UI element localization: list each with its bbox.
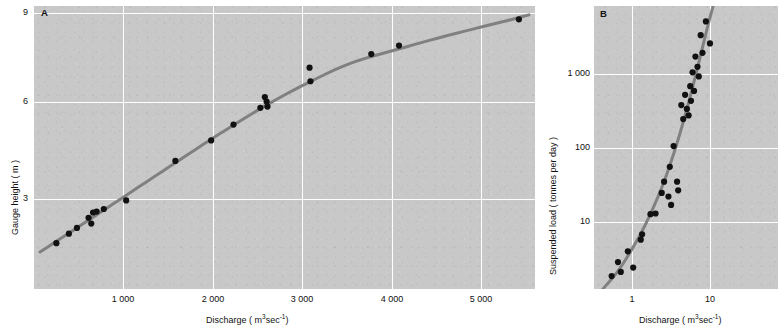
- data-point: [609, 273, 615, 279]
- data-point: [698, 32, 704, 38]
- panel-a-xtick-2000: 2 000: [186, 295, 240, 304]
- data-point: [689, 69, 695, 75]
- panel-a-fit-curve: [40, 15, 529, 252]
- panel-b-x-axis-title-end: ): [718, 315, 721, 325]
- panel-b-xtick-10: 10: [690, 295, 730, 304]
- panel-b-x-axis-title: Discharge ( m3sec-1): [639, 313, 721, 325]
- data-point: [665, 193, 671, 199]
- data-point: [307, 78, 313, 84]
- panel-a-ytick-9: 9: [14, 8, 28, 17]
- panel-a-plot-area: [34, 6, 535, 289]
- data-point: [123, 197, 129, 203]
- panel-a-x-axis-title: Discharge ( m3sec-1): [206, 313, 288, 325]
- data-point: [652, 210, 658, 216]
- panel-a-x-axis-title-main: Discharge ( m: [206, 315, 262, 325]
- data-point: [703, 18, 709, 24]
- panel-a-xtick-1000: 1 000: [96, 295, 150, 304]
- data-point: [230, 121, 236, 127]
- panel-b-x-axis-title-main: Discharge ( m: [639, 315, 695, 325]
- data-point: [396, 42, 402, 48]
- panel-a-xtick-5000: 5 000: [454, 295, 508, 304]
- data-point: [638, 237, 644, 243]
- data-point: [88, 220, 94, 226]
- data-point: [685, 112, 691, 118]
- data-point: [172, 158, 178, 164]
- data-point: [694, 64, 700, 70]
- panel-b-xtick-1: 1: [612, 295, 652, 304]
- data-point: [66, 231, 72, 237]
- data-point: [257, 105, 263, 111]
- data-point: [696, 73, 702, 79]
- data-point: [264, 103, 270, 109]
- data-point: [668, 202, 674, 208]
- data-point: [615, 259, 621, 265]
- data-point: [674, 179, 680, 185]
- data-point: [707, 40, 713, 46]
- panel-a-x-axis-title-mid: sec: [266, 315, 280, 325]
- data-point: [368, 51, 374, 57]
- data-point: [516, 16, 522, 22]
- data-point: [692, 53, 698, 59]
- data-point: [667, 164, 673, 170]
- panel-b-x-axis-title-mid: sec: [699, 315, 713, 325]
- data-point: [85, 215, 91, 221]
- data-point: [101, 206, 107, 212]
- data-point: [74, 225, 80, 231]
- panel-b-y-axis-title: Suspended load ( tonnes per day ): [548, 137, 558, 275]
- data-point: [94, 208, 100, 214]
- figure-root: A 9 6 3 1 000 2 000 3 000 4 000 5 000 Di…: [0, 0, 784, 331]
- data-point: [625, 248, 631, 254]
- data-point: [678, 102, 684, 108]
- panel-b-fit-curve: [596, 6, 776, 289]
- panel-a-data-layer: [34, 6, 535, 289]
- panel-b-plot-area: [594, 6, 778, 289]
- panel-b-ytick-1000: 1 000: [552, 69, 590, 78]
- panel-a-xtick-3000: 3 000: [275, 295, 329, 304]
- panel-b-data-layer: [594, 6, 778, 289]
- data-point: [671, 143, 677, 149]
- panel-a-y-axis-title: Gauge height ( m ): [10, 160, 20, 235]
- data-point: [675, 187, 681, 193]
- data-point: [680, 116, 686, 122]
- panel-a-x-axis-title-end: ): [285, 315, 288, 325]
- data-point: [53, 240, 59, 246]
- panel-a-letter: A: [41, 7, 48, 18]
- data-point: [699, 50, 705, 56]
- panel-a-xtick-4000: 4 000: [365, 295, 419, 304]
- data-point: [639, 231, 645, 237]
- data-point: [691, 88, 697, 94]
- data-point: [682, 92, 688, 98]
- panel-b-letter: B: [600, 8, 607, 19]
- data-point: [659, 190, 665, 196]
- data-point: [306, 65, 312, 71]
- data-point: [630, 264, 636, 270]
- data-point: [688, 98, 694, 104]
- data-point: [684, 106, 690, 112]
- data-point: [661, 179, 667, 185]
- panel-a-ytick-6: 6: [14, 97, 28, 106]
- data-point: [618, 269, 624, 275]
- data-point: [208, 137, 214, 143]
